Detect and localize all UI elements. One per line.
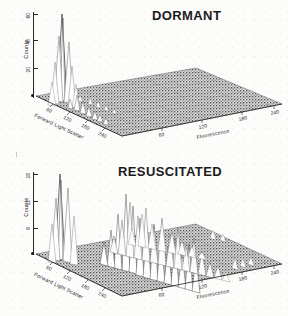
right-tick-60: 60	[158, 291, 165, 298]
surface-plot-dormant	[0, 0, 288, 158]
ztick-label-20: 20	[25, 67, 31, 87]
ztick-label-6: 6	[25, 227, 31, 247]
panel-resuscitated: RESUSCITATED	[0, 158, 288, 316]
ztick-40	[33, 40, 38, 41]
zaxis-line-resuscitated	[33, 172, 34, 255]
peak-dormant-main	[48, 14, 80, 108]
peak-resuscitated-residual	[48, 174, 78, 265]
figure-root: DORMANT	[0, 0, 288, 316]
scan-artifact	[16, 152, 17, 157]
origin-marker	[31, 252, 34, 255]
panel-dormant: DORMANT	[0, 0, 288, 158]
origin-marker	[31, 94, 34, 97]
zaxis-title-dormant: Counts	[23, 29, 29, 69]
right-tick-60: 60	[158, 131, 165, 138]
ztick-18	[33, 174, 38, 175]
ztick-60	[33, 14, 38, 15]
ztick-6	[33, 228, 38, 229]
ztick-12	[33, 201, 38, 202]
ztick-20	[33, 68, 38, 69]
zaxis-title-resuscitated: Counts	[23, 187, 29, 227]
surface-plot-resuscitated	[0, 158, 288, 316]
zaxis-line-dormant	[33, 12, 34, 98]
